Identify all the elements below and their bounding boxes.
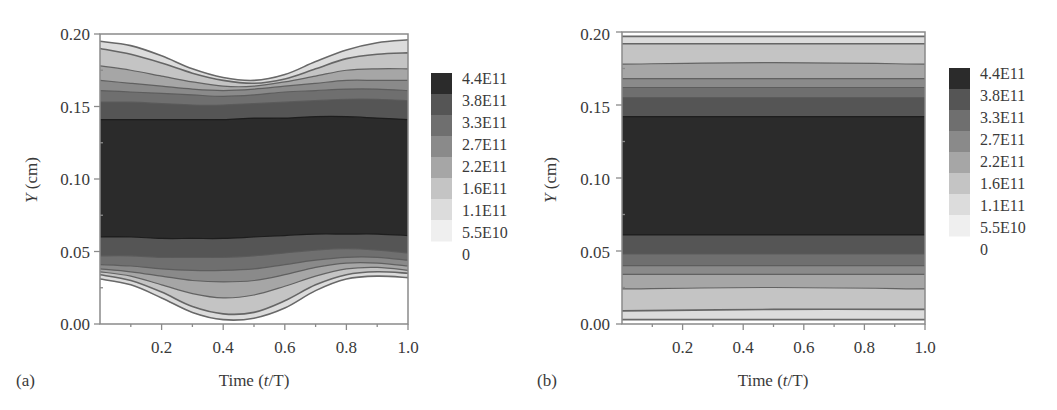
panel-b-ytick: 0.05	[580, 243, 610, 262]
panel-b-y-tick-labels: 0.00 0.05 0.10 0.15 0.20	[580, 25, 610, 334]
panel-b-colorbar-labels: 4.4E11 3.8E11 3.3E11 2.7E11 2.2E11 1.6E1…	[980, 65, 1026, 258]
panel-b-label: (b)	[537, 371, 557, 390]
panel-a-xtick: 0.6	[274, 338, 295, 357]
panel-a-y-axis-label: Y (cm)	[22, 157, 41, 203]
panel-a-colorbar	[431, 73, 452, 242]
colorbar-label: 3.3E11	[980, 109, 1025, 126]
panel-a-ytick: 0.20	[60, 25, 90, 44]
panel-b: 0.00 0.05 0.10 0.15 0.20 0.2 0.4 0.6 0.8…	[537, 25, 1026, 390]
panel-b-xtick: 0.6	[793, 338, 814, 357]
panel-a-y-tick-labels: 0.00 0.05 0.10 0.15 0.20	[60, 25, 90, 334]
panel-a-x-tick-labels: 0.2 0.4 0.6 0.8 1.0	[151, 338, 419, 357]
panel-b-ytick: 0.15	[580, 98, 610, 117]
colorbar-label: 1.6E11	[462, 180, 507, 197]
panel-b-xtick: 0.2	[672, 338, 693, 357]
panel-a: 0.00 0.05 0.10 0.15 0.20 0.2 0.4 0.6 0.8…	[16, 25, 508, 390]
colorbar-label: 1.1E11	[462, 202, 507, 219]
panel-a-contour-plot	[100, 34, 408, 324]
panel-b-xtick: 0.8	[854, 338, 875, 357]
panel-b-contour-plot	[622, 32, 925, 324]
colorbar-label: 2.7E11	[980, 131, 1025, 148]
panel-a-ytick: 0.00	[60, 315, 90, 334]
panel-a-ytick: 0.05	[60, 243, 90, 262]
panel-a-colorbar-labels: 4.4E11 3.8E11 3.3E11 2.7E11 2.2E11 1.6E1…	[462, 70, 508, 263]
panel-a-xtick: 0.8	[336, 338, 357, 357]
panel-b-y-axis-label: Y (cm)	[541, 157, 560, 203]
colorbar-label: 2.2E11	[980, 153, 1025, 170]
panel-b-ytick: 0.20	[580, 25, 610, 44]
colorbar-label: 2.7E11	[462, 136, 507, 153]
panel-b-xtick: 1.0	[914, 338, 935, 357]
colorbar-label: 0	[462, 246, 470, 263]
panel-a-x-axis-label: Time (t/T)	[219, 371, 290, 390]
contour-figure: 0.00 0.05 0.10 0.15 0.20 0.2 0.4 0.6 0.8…	[0, 0, 1057, 410]
panel-b-xtick: 0.4	[733, 338, 755, 357]
panel-b-ytick: 0.10	[580, 170, 610, 189]
colorbar-label: 5.5E10	[462, 224, 508, 241]
panel-b-ytick: 0.00	[580, 315, 610, 334]
colorbar-label: 5.5E10	[980, 219, 1026, 236]
panel-a-ytick: 0.15	[60, 98, 90, 117]
colorbar-label: 1.6E11	[980, 175, 1025, 192]
panel-b-colorbar	[949, 68, 970, 237]
colorbar-label: 1.1E11	[980, 197, 1025, 214]
colorbar-label: 2.2E11	[462, 158, 507, 175]
colorbar-label: 0	[980, 241, 988, 258]
colorbar-label: 3.8E11	[462, 92, 507, 109]
panel-a-ytick: 0.10	[60, 170, 90, 189]
panel-a-xtick: 0.2	[151, 338, 172, 357]
colorbar-label: 3.3E11	[462, 114, 507, 131]
panel-a-xtick: 0.4	[213, 338, 235, 357]
panel-b-x-axis-label: Time (t/T)	[738, 371, 809, 390]
colorbar-label: 4.4E11	[980, 65, 1025, 82]
panel-a-label: (a)	[16, 371, 35, 390]
panel-a-xtick: 1.0	[397, 338, 418, 357]
panel-b-x-tick-labels: 0.2 0.4 0.6 0.8 1.0	[672, 338, 936, 357]
colorbar-label: 4.4E11	[462, 70, 507, 87]
colorbar-label: 3.8E11	[980, 87, 1025, 104]
